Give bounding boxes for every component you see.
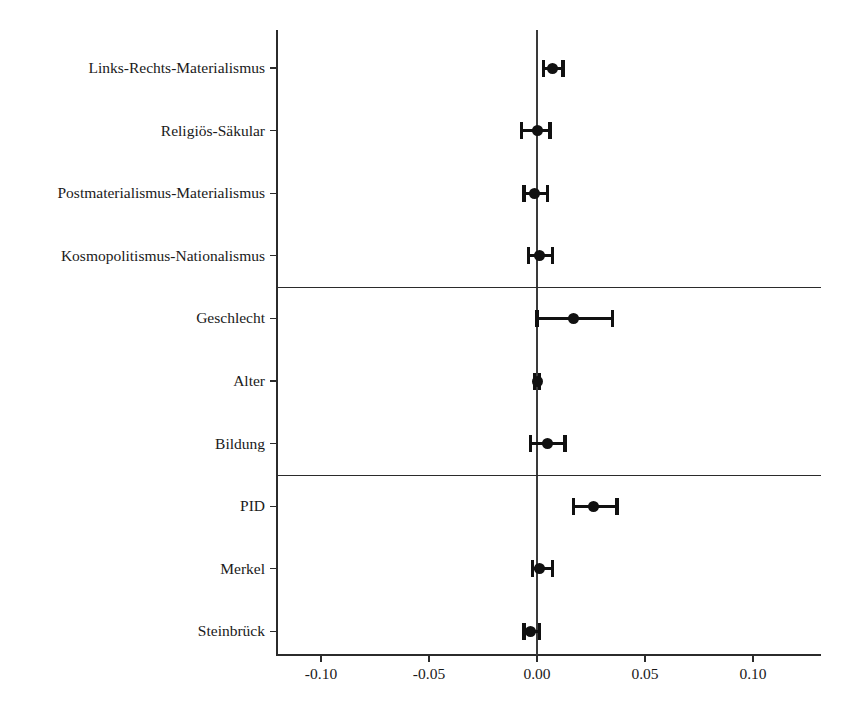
- point-estimate-religi-s-s-kular: [532, 125, 543, 136]
- point-estimate-pid: [588, 501, 599, 512]
- point-estimate-geschlecht: [568, 313, 579, 324]
- confidence-interval-cap-low-geschlecht: [535, 310, 538, 327]
- confidence-interval-cap-low-pid: [572, 498, 575, 515]
- point-estimate-merkel: [534, 563, 545, 574]
- confidence-interval-cap-low-links-rechts-materialismus: [542, 60, 545, 77]
- confidence-interval-cap-low-postmaterialismus-materialismus: [522, 185, 525, 202]
- confidence-interval-cap-high-religi-s-s-kular: [548, 122, 551, 139]
- confidence-interval-cap-high-links-rechts-materialismus: [561, 60, 564, 77]
- confidence-interval-cap-high-steinbr-ck: [538, 623, 541, 640]
- confidence-interval-cap-low-bildung: [529, 435, 532, 452]
- confidence-interval-cap-high-pid: [615, 498, 618, 515]
- confidence-interval-cap-high-kosmopolitismus-nationalismus: [551, 247, 554, 264]
- point-estimate-postmaterialismus-materialismus: [529, 188, 540, 199]
- point-estimate-alter: [532, 376, 543, 387]
- point-estimate-bildung: [542, 438, 553, 449]
- confidence-interval-cap-high-geschlecht: [611, 310, 614, 327]
- point-estimate-kosmopolitismus-nationalismus: [534, 250, 545, 261]
- estimate-series: [0, 0, 844, 724]
- point-estimate-steinbr-ck: [525, 626, 536, 637]
- confidence-interval-cap-high-merkel: [551, 560, 554, 577]
- confidence-interval-cap-low-kosmopolitismus-nationalismus: [527, 247, 530, 264]
- confidence-interval-cap-high-bildung: [563, 435, 566, 452]
- confidence-interval-cap-low-religi-s-s-kular: [520, 122, 523, 139]
- point-estimate-links-rechts-materialismus: [547, 63, 558, 74]
- coefficient-plot: Links-Rechts-MaterialismusReligiös-Säkul…: [0, 0, 844, 724]
- confidence-interval-cap-high-postmaterialismus-materialismus: [546, 185, 549, 202]
